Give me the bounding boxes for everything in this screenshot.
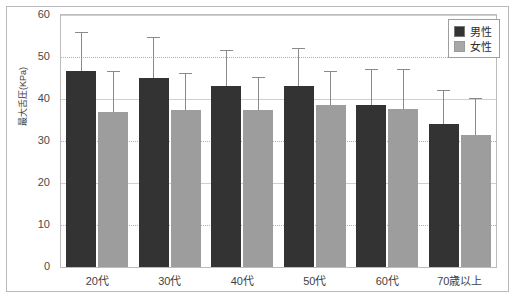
y-axis-tick-label: 0	[4, 260, 50, 272]
bar-group	[351, 15, 424, 267]
error-bar	[371, 70, 372, 106]
bar-rect	[171, 110, 201, 268]
chart-legend: 男性 女性	[448, 19, 500, 58]
error-bar-cap	[437, 90, 450, 91]
error-bar-cap	[107, 71, 120, 72]
bar-group	[206, 15, 279, 267]
error-bar-cap	[365, 69, 378, 70]
x-axis-tick-label: 30代	[134, 272, 207, 288]
error-bar	[298, 49, 299, 86]
error-bar	[258, 78, 259, 110]
error-bar-cap	[469, 98, 482, 99]
legend-label-male: 男性	[470, 23, 492, 39]
bar-group	[61, 15, 134, 267]
y-axis-tick-label: 60	[4, 8, 50, 20]
bar-group	[134, 15, 207, 267]
bar-male[interactable]	[139, 15, 169, 267]
y-axis-tick-labels: 0102030405060	[0, 14, 56, 268]
bar-chart: 最大舌圧(KPa) 0102030405060 20代30代40代50代60代7…	[0, 0, 517, 300]
x-axis-tick-label: 20代	[61, 272, 134, 288]
bar-female[interactable]	[316, 15, 346, 267]
y-axis-tick-label: 10	[4, 218, 50, 230]
bar-rect	[388, 109, 418, 267]
error-bar	[443, 91, 444, 125]
error-bar-cap	[75, 32, 88, 33]
bar-male[interactable]	[356, 15, 386, 267]
y-axis-tick-label: 30	[4, 134, 50, 146]
bar-rect	[98, 112, 128, 267]
bar-groups	[61, 15, 496, 267]
bar-male[interactable]	[284, 15, 314, 267]
x-axis-tick-label: 70歳以上	[424, 272, 497, 288]
bar-female[interactable]	[171, 15, 201, 267]
x-axis-tick-label: 60代	[351, 272, 424, 288]
x-axis-tick-label: 50代	[279, 272, 352, 288]
bar-rect	[243, 110, 273, 268]
bar-rect	[139, 78, 169, 267]
legend-swatch-male-icon	[454, 26, 465, 37]
legend-item-male: 男性	[454, 24, 492, 38]
bar-female[interactable]	[388, 15, 418, 267]
bar-male[interactable]	[211, 15, 241, 267]
error-bar	[153, 38, 154, 78]
error-bar	[185, 74, 186, 110]
error-bar-cap	[397, 69, 410, 70]
bar-rect	[66, 71, 96, 267]
error-bar	[475, 99, 476, 135]
error-bar	[403, 70, 404, 109]
bar-female[interactable]	[243, 15, 273, 267]
y-axis-tick-label: 50	[4, 50, 50, 62]
error-bar-cap	[324, 71, 337, 72]
error-bar-cap	[292, 48, 305, 49]
bar-rect	[429, 124, 459, 267]
legend-label-female: 女性	[470, 38, 492, 54]
error-bar-cap	[252, 77, 265, 78]
bar-rect	[316, 105, 346, 267]
error-bar-cap	[220, 50, 233, 51]
error-bar	[113, 72, 114, 112]
bar-rect	[356, 105, 386, 267]
bar-rect	[211, 86, 241, 267]
legend-item-female: 女性	[454, 39, 492, 53]
error-bar-cap	[147, 37, 160, 38]
error-bar	[226, 51, 227, 87]
bar-male[interactable]	[66, 15, 96, 267]
error-bar	[330, 72, 331, 106]
error-bar	[81, 33, 82, 71]
bar-rect	[284, 86, 314, 267]
y-axis-tick-label: 20	[4, 176, 50, 188]
y-axis-tick-label: 40	[4, 92, 50, 104]
bar-female[interactable]	[98, 15, 128, 267]
legend-swatch-female-icon	[454, 41, 465, 52]
x-axis-tick-label: 40代	[206, 272, 279, 288]
bar-rect	[461, 135, 491, 267]
bar-group	[279, 15, 352, 267]
error-bar-cap	[179, 73, 192, 74]
